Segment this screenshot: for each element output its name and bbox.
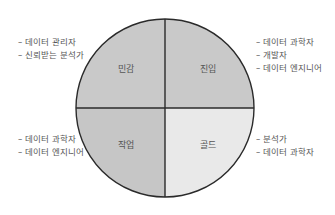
role-item: 데이터 과학자 — [256, 36, 322, 49]
roles-top-left: 데이터 관리자 신뢰받는 분석가 — [18, 36, 84, 62]
role-item: 데이터 과학자 — [256, 146, 314, 159]
quadrant-bottom-left — [76, 108, 165, 197]
roles-bottom-left: 데이터 과학자 데이터 엔지니어 — [18, 133, 84, 159]
quadrant-label-top-left: 민감 — [118, 63, 134, 74]
role-item: 신뢰받는 분석가 — [18, 49, 84, 62]
quadrant-bottom-right — [165, 108, 254, 197]
role-item: 개발자 — [256, 49, 322, 62]
quadrant-label-bottom-right: 골드 — [200, 140, 216, 150]
role-item: 분석가 — [256, 133, 314, 146]
quadrant-label-bottom-left: 작업 — [118, 140, 134, 150]
roles-top-right: 데이터 과학자 개발자 데이터 엔지니어 — [256, 36, 322, 75]
role-item: 데이터 엔지니어 — [18, 146, 84, 159]
role-item: 데이터 엔지니어 — [256, 62, 322, 75]
quadrant-label-top-right: 진입 — [200, 63, 216, 74]
quadrant-circle-diagram: 민감 진입 작업 골드 — [0, 0, 335, 215]
role-item: 데이터 과학자 — [18, 133, 84, 146]
role-item: 데이터 관리자 — [18, 36, 84, 49]
roles-bottom-right: 분석가 데이터 과학자 — [256, 133, 314, 159]
